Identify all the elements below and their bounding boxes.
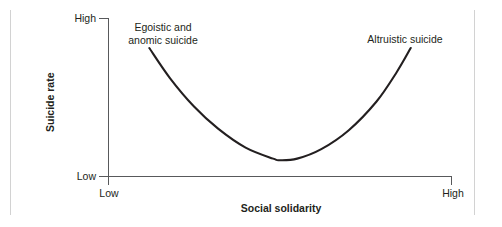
suicide-rate-curve	[149, 48, 410, 160]
chart-figure: High Low Low High Suicide rate Social so…	[0, 0, 502, 227]
curve-layer	[0, 0, 502, 227]
